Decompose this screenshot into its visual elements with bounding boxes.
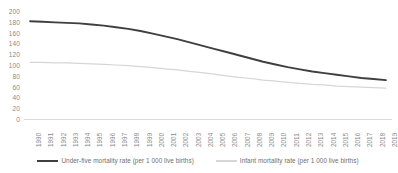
x-axis-baseline xyxy=(24,119,392,120)
x-axis-tick-label: 1995 xyxy=(96,133,103,147)
x-axis-tick-label: 2010 xyxy=(280,133,287,147)
x-axis-tick-label: 2002 xyxy=(182,133,189,147)
plot-area xyxy=(24,11,392,119)
y-axis-tick-label: 160 xyxy=(0,29,20,36)
x-axis-tick-label: 2016 xyxy=(354,133,361,147)
chart-legend: Under-five mortality rate (per 1 000 liv… xyxy=(0,153,396,169)
x-axis-tick-label: 1999 xyxy=(146,133,153,147)
x-axis: 1990199119921993199419951996199719981999… xyxy=(24,121,392,149)
x-axis-tick-label: 2009 xyxy=(268,133,275,147)
x-axis-tick-label: 2008 xyxy=(256,133,263,147)
y-axis-tick-label: 200 xyxy=(0,8,20,15)
y-axis-tick-label: 0 xyxy=(0,116,20,123)
y-axis-tick-label: 20 xyxy=(0,105,20,112)
x-axis-tick-label: 2000 xyxy=(158,133,165,147)
legend-item-label: Infant mortality rate (per 1 000 live bi… xyxy=(240,157,359,165)
x-axis-tick-label: 2005 xyxy=(219,133,226,147)
series-line-under-five xyxy=(30,21,386,80)
y-axis-tick-label: 60 xyxy=(0,83,20,90)
y-axis-tick-label: 100 xyxy=(0,62,20,69)
y-axis-tick-label: 120 xyxy=(0,51,20,58)
x-axis-tick-label: 1992 xyxy=(60,133,67,147)
x-axis-tick-label: 2015 xyxy=(342,133,349,147)
x-axis-tick-label: 2019 xyxy=(391,133,398,147)
x-axis-tick-label: 2013 xyxy=(317,133,324,147)
x-axis-tick-label: 2004 xyxy=(207,133,214,147)
x-axis-tick-label: 1998 xyxy=(133,133,140,147)
x-axis-tick-label: 2011 xyxy=(293,133,300,147)
y-axis-tick-label: 180 xyxy=(0,18,20,25)
y-axis-tick-label: 140 xyxy=(0,40,20,47)
legend-item-infant: Infant mortality rate (per 1 000 live bi… xyxy=(216,157,359,165)
y-axis-tick-label: 80 xyxy=(0,72,20,79)
x-axis-tick-label: 2014 xyxy=(330,133,337,147)
series-container xyxy=(24,11,392,119)
legend-item-label: Under-five mortality rate (per 1 000 liv… xyxy=(61,157,193,165)
y-axis-tick-label: 40 xyxy=(0,94,20,101)
x-axis-tick-label: 2017 xyxy=(366,133,373,147)
x-axis-tick-label: 2018 xyxy=(379,133,386,147)
x-axis-tick-label: 1990 xyxy=(35,133,42,147)
x-axis-tick-label: 2012 xyxy=(305,133,312,147)
x-axis-tick-label: 1991 xyxy=(47,133,54,147)
x-axis-tick-label: 2006 xyxy=(231,133,238,147)
line-swatch-icon xyxy=(37,160,58,162)
x-axis-tick-label: 2001 xyxy=(170,133,177,147)
x-axis-tick-label: 1993 xyxy=(72,133,79,147)
y-axis: 200180160140120100806040200 xyxy=(0,11,22,119)
x-axis-tick-label: 2007 xyxy=(244,133,251,147)
x-axis-tick-label: 1996 xyxy=(109,133,116,147)
series-line-infant xyxy=(30,62,386,88)
x-axis-tick-label: 2003 xyxy=(195,133,202,147)
line-swatch-icon xyxy=(216,160,237,161)
legend-item-under-five: Under-five mortality rate (per 1 000 liv… xyxy=(37,157,193,165)
x-axis-tick-label: 1994 xyxy=(84,133,91,147)
x-axis-tick-label: 1997 xyxy=(121,133,128,147)
